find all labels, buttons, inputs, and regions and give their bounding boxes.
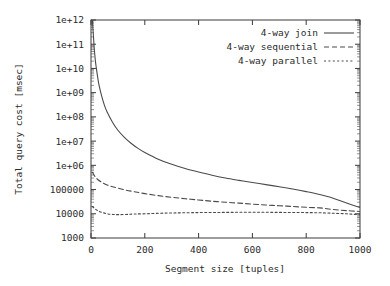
- x-tick-label: 0: [88, 244, 94, 255]
- x-tick-label: 400: [190, 244, 207, 255]
- y-tick-label: 1e+08: [55, 111, 84, 122]
- y-tick-label: 100000: [50, 184, 85, 195]
- y-axis-minor-ticks: [91, 21, 360, 231]
- x-axis-tick-labels: 02004006008001000: [88, 244, 372, 255]
- y-tick-label: 1e+09: [55, 87, 84, 98]
- x-axis-title: Segment size [tuples]: [165, 263, 285, 274]
- y-tick-label: 10000: [55, 208, 84, 219]
- chart-figure: 1000100001000001e+061e+071e+081e+091e+10…: [0, 0, 390, 286]
- y-axis-title: Total query cost [msec]: [13, 63, 24, 195]
- legend-label-4-way-parallel: 4-way parallel: [238, 55, 318, 66]
- x-tick-label: 600: [244, 244, 261, 255]
- y-tick-label: 1e+11: [55, 39, 84, 50]
- x-tick-label: 1000: [349, 244, 372, 255]
- chart-plot-area: 1000100001000001e+061e+071e+081e+091e+10…: [0, 0, 390, 286]
- y-tick-label: 1e+12: [55, 14, 84, 25]
- x-tick-label: 800: [298, 244, 315, 255]
- legend-label-4-way-join: 4-way join: [261, 27, 318, 38]
- y-tick-label: 1e+06: [55, 160, 84, 171]
- chart-legend: 4-way join4-way sequential4-way parallel: [226, 27, 354, 66]
- y-axis-major-ticks: [91, 20, 360, 238]
- plot-frame: [91, 20, 360, 238]
- y-tick-label: 1000: [61, 232, 84, 243]
- x-axis-major-ticks: [91, 20, 360, 238]
- x-tick-label: 200: [136, 244, 153, 255]
- y-axis-tick-labels: 1000100001000001e+061e+071e+081e+091e+10…: [50, 14, 85, 243]
- y-tick-label: 1e+07: [55, 136, 84, 147]
- legend-label-4-way-sequential: 4-way sequential: [226, 41, 318, 52]
- y-tick-label: 1e+10: [55, 63, 84, 74]
